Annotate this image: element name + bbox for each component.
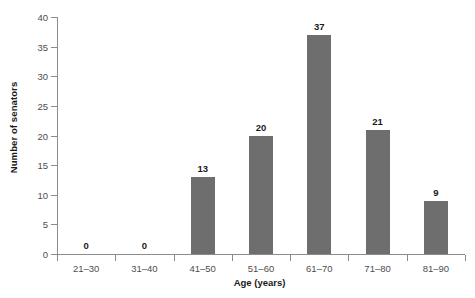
bar-value-label: 20 (231, 122, 291, 133)
bar (249, 136, 273, 255)
x-axis-title-label: Age (years) (234, 277, 286, 288)
bar (307, 35, 331, 254)
x-axis-tick-mark (174, 255, 175, 261)
y-axis-tick-label: 25 (2, 100, 48, 111)
plot-area: 00132037219 (57, 17, 465, 254)
x-axis-tick-mark (348, 255, 349, 261)
x-axis-tick-mark (57, 255, 58, 261)
x-axis-tick-mark (465, 255, 466, 261)
y-axis-tick-label: 15 (2, 160, 48, 171)
bar-value-label: 0 (114, 240, 174, 251)
x-axis-tick-mark (407, 255, 408, 261)
y-axis-tick-label: 20 (2, 130, 48, 141)
y-axis-tick-label: 10 (2, 189, 48, 200)
bar (191, 177, 215, 254)
y-axis-tick-label: 35 (2, 41, 48, 52)
x-axis-tick-label: 81–90 (401, 263, 471, 274)
bar (424, 201, 448, 254)
bar-value-label: 0 (56, 240, 116, 251)
x-axis-tick-mark (232, 255, 233, 261)
bar-value-label: 9 (406, 187, 466, 198)
bar-chart: Number of senators 0510152025303540 21–3… (0, 0, 475, 298)
y-axis-tick-label: 0 (2, 249, 48, 260)
y-axis-tick-label: 5 (2, 219, 48, 230)
x-axis-line (57, 254, 465, 255)
y-axis-title: Number of senators (2, 0, 26, 254)
bar-value-label: 21 (348, 116, 408, 127)
x-axis-tick-mark (115, 255, 116, 261)
x-axis-title: Age (years) (0, 277, 475, 288)
bar-value-label: 13 (173, 163, 233, 174)
x-axis-tick-mark (290, 255, 291, 261)
bar-value-label: 37 (289, 21, 349, 32)
y-axis-tick-label: 40 (2, 12, 48, 23)
y-axis-tick-label: 30 (2, 71, 48, 82)
bar (366, 130, 390, 254)
